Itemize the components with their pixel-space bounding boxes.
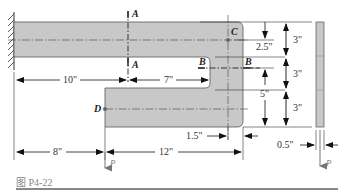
point-c-label: C [231,26,238,37]
section-b-right-label: B [244,56,252,67]
dim-12-label: 12" [159,146,173,157]
dim-7-label: 7" [164,74,173,85]
figure-caption: 图 P4-22 [16,174,52,189]
dim-3-top-label: 3" [293,34,302,45]
fixed-wall [8,12,14,70]
dim-10-label: 10" [63,74,77,85]
dim-0-5-label: 0.5" [277,139,294,150]
bracket-body [14,22,243,127]
dim-3-mid-label: 3" [293,68,302,79]
bracket-diagram: A A B B C D 10" 7" 8" [0,0,352,195]
dim-8-label: 8" [53,146,62,157]
load-front-label: P [109,158,116,168]
point-d-label: D [93,103,101,114]
caption-divider [16,188,338,190]
dim-5-label: 5" [260,88,269,99]
section-a-bottom-label: A [131,59,139,70]
load-side-label: P [325,158,332,168]
point-c-marker [226,38,230,42]
section-a-top-label: A [131,8,139,19]
side-view-plate [316,22,324,127]
dim-3-bot-label: 3" [293,102,302,113]
point-d-marker [103,107,107,111]
dim-2-5-label: 2.5" [256,41,273,52]
dim-1-5-label: 1.5" [186,130,203,141]
section-b-left-label: B [198,56,206,67]
